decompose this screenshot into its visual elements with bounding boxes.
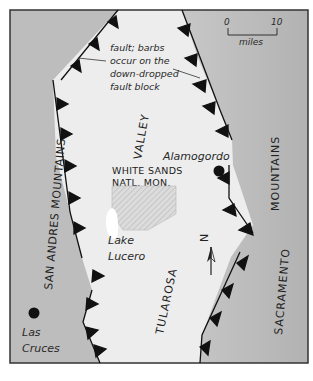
lake-lucero-label-line2: Lucero <box>108 250 145 263</box>
svg-text:fault block: fault block <box>110 81 160 92</box>
city-dot-icon <box>214 166 225 177</box>
map-canvas: fault; barbs occur on the down-dropped f… <box>0 0 313 381</box>
svg-text:10: 10 <box>271 17 283 27</box>
svg-text:N: N <box>198 234 211 242</box>
svg-text:fault; barbs: fault; barbs <box>110 42 165 53</box>
lake-lucero-label-line1: Lake <box>108 234 134 247</box>
las-cruces-label-line2: Cruces <box>22 342 60 355</box>
svg-text:down-dropped: down-dropped <box>110 68 180 79</box>
svg-text:occur on the: occur on the <box>110 55 170 66</box>
svg-text:miles: miles <box>239 37 263 47</box>
svg-text:0: 0 <box>224 17 230 27</box>
city-dot-icon <box>29 308 40 319</box>
white-sands-label-line1: WHITE SANDS <box>112 165 183 176</box>
mountains-label-right: MOUNTAINS <box>269 136 282 211</box>
alamogordo-label: Alamogordo <box>162 150 230 163</box>
las-cruces-label-line1: Las <box>22 326 41 339</box>
